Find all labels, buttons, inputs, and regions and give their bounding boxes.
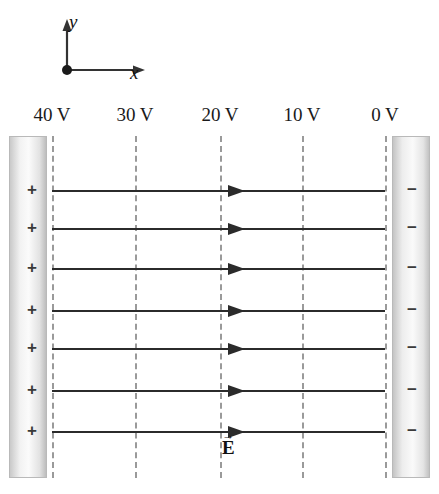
- negative-charge-sign: −: [404, 301, 420, 318]
- electric-field-equipotential-figure: y x 40 V30 V20 V10 V0 V +−+−+−+−+−+−+− →…: [0, 0, 439, 494]
- field-line: [52, 190, 385, 192]
- field-arrowhead-icon: [228, 385, 245, 397]
- positive-charge-sign: +: [24, 339, 40, 356]
- field-line: [52, 268, 385, 270]
- equipotential-line-20v: [220, 136, 222, 478]
- field-line: [52, 228, 385, 230]
- positive-charge-sign: +: [24, 181, 40, 198]
- origin-dot-icon: [62, 65, 72, 75]
- field-arrowhead-icon: [228, 263, 245, 275]
- electric-field-vector-label: → E: [222, 432, 235, 457]
- negative-charge-sign: −: [404, 181, 420, 198]
- positive-charge-sign: +: [24, 259, 40, 276]
- negative-charge-sign: −: [404, 339, 420, 356]
- voltage-label-30v: 30 V: [100, 104, 170, 126]
- negative-charge-sign: −: [404, 259, 420, 276]
- voltage-label-0v: 0 V: [350, 104, 420, 126]
- positive-charge-sign: +: [24, 422, 40, 439]
- field-arrowhead-icon: [228, 305, 245, 317]
- voltage-label-20v: 20 V: [185, 104, 255, 126]
- field-line: [52, 348, 385, 350]
- x-axis-label: x: [130, 63, 138, 82]
- axes-svg: [0, 0, 439, 105]
- equipotential-line-40v: [52, 136, 54, 478]
- field-symbol: E: [222, 438, 235, 457]
- positive-charge-sign: +: [24, 381, 40, 398]
- field-line: [52, 390, 385, 392]
- positive-charge-sign: +: [24, 219, 40, 236]
- field-arrowhead-icon: [228, 185, 245, 197]
- field-arrowhead-icon: [228, 223, 245, 235]
- y-axis-label: y: [69, 12, 77, 31]
- field-line: [52, 431, 385, 433]
- positive-charge-sign: +: [24, 301, 40, 318]
- negative-charge-sign: −: [404, 219, 420, 236]
- field-arrowhead-icon: [228, 343, 245, 355]
- negative-charge-sign: −: [404, 381, 420, 398]
- equipotential-line-10v: [302, 136, 304, 478]
- voltage-label-40v: 40 V: [17, 104, 87, 126]
- equipotential-line-30v: [135, 136, 137, 478]
- field-line: [52, 310, 385, 312]
- voltage-label-10v: 10 V: [267, 104, 337, 126]
- coordinate-axes: y x: [0, 0, 439, 105]
- equipotential-line-0v: [385, 136, 387, 478]
- negative-charge-sign: −: [404, 422, 420, 439]
